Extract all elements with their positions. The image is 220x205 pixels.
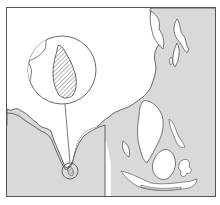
island-okinawa xyxy=(170,57,173,65)
map-frame: Sri Lanka locator map xyxy=(6,7,216,197)
inset-magnifier xyxy=(21,36,96,104)
inset-leader-line xyxy=(65,104,70,163)
locator-map xyxy=(7,8,216,197)
